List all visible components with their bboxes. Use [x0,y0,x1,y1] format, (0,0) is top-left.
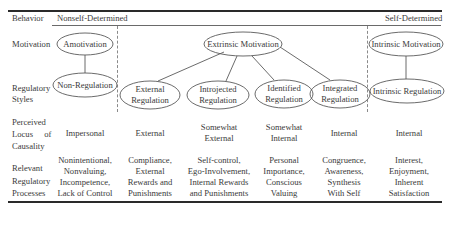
locus-internal-integrated: Internal [331,128,358,139]
processes-external: Compliance, External Rewards and Punishm… [128,155,173,199]
locus-somewhat-external: Somewhat External [201,122,237,144]
processes-integrated: Congruence, Awareness, Synthesis With Se… [322,155,366,199]
node-non-regulation: Non-Regulation [57,80,112,91]
locus-impersonal: Impersonal [66,128,105,139]
connector-extrinsic-identified [252,56,274,80]
connector-extrinsic-integrated [280,47,330,80]
node-identified-regulation: Identified Regulation [265,83,303,105]
node-intrinsic-regulation: Intrinsic Regulation [373,86,442,97]
node-integrated-regulation: Integrated Regulation [321,83,359,105]
node-external-regulation: External Regulation [131,84,169,106]
node-amotivation: Amotivation [63,39,106,50]
processes-amotivation: Nonintentional, Nonvaluing, Incompetence… [58,155,113,199]
processes-intrinsic: Interest, Enjoyment, Inherent Satisfacti… [389,155,430,199]
processes-identified: Personal Importance, Conscious Valuing [263,155,304,199]
locus-internal-intrinsic: Internal [396,128,423,139]
locus-external: External [135,128,164,139]
connector-extrinsic-external [158,52,224,81]
node-introjected-regulation: Introjected Regulation [199,84,237,106]
node-extrinsic-motivation: Extrinsic Motivation [207,39,278,50]
node-intrinsic-motivation: Intrinsic Motivation [372,39,441,50]
connector-extrinsic-introjected [226,56,237,81]
processes-introjected: Self-control, Ego-Involvement, Internal … [188,155,250,199]
locus-somewhat-internal: Somewhat Internal [266,122,302,144]
